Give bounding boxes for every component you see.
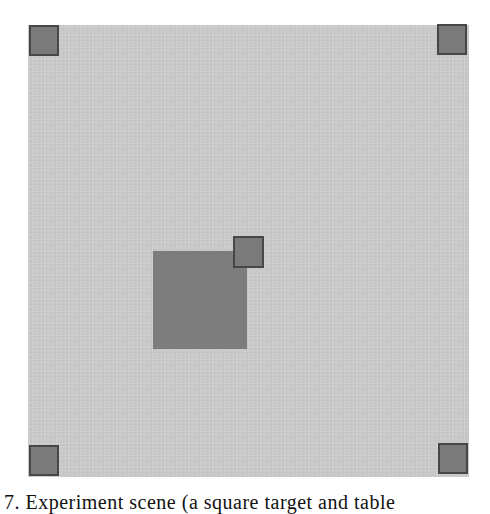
corner-marker-bottom-right [438, 443, 468, 474]
center-marker [233, 236, 264, 268]
corner-marker-top-right [437, 24, 467, 55]
corner-marker-top-left [29, 25, 59, 56]
corner-marker-bottom-left [29, 445, 59, 476]
figure-caption: 7. Experiment scene (a square target and… [4, 490, 395, 514]
